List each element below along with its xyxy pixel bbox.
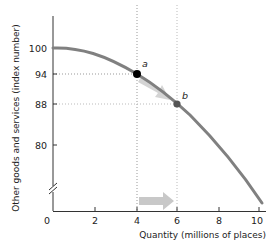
x-label-4: 4 xyxy=(134,215,140,226)
point-a-label: a xyxy=(142,58,148,69)
y-axis-title: Other goods and services (index number) xyxy=(11,24,21,212)
point-a xyxy=(133,70,141,78)
quantity-increase-arrow-icon xyxy=(139,192,174,210)
x-label-0: 0 xyxy=(44,215,50,226)
point-b-label: b xyxy=(182,90,188,101)
x-label-10: 10 xyxy=(251,215,263,226)
y-label-88: 88 xyxy=(35,99,47,110)
x-label-8: 8 xyxy=(216,215,222,226)
y-label-100: 100 xyxy=(29,43,47,54)
movement-arrow-icon xyxy=(138,77,170,100)
ppf-chart: 100 94 88 80 0 2 4 6 8 10 Quantity (mill… xyxy=(0,0,277,243)
x-label-2: 2 xyxy=(92,215,98,226)
y-label-80: 80 xyxy=(35,140,47,151)
ppf-curve xyxy=(53,48,262,203)
y-label-94: 94 xyxy=(35,69,47,80)
point-b xyxy=(173,100,180,107)
x-axis-title: Quantity (millions of places) xyxy=(139,230,266,240)
x-label-6: 6 xyxy=(174,215,180,226)
